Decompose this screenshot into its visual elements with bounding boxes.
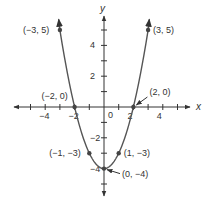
point-label: (1, −3) — [124, 148, 150, 158]
y-tick-label: −4 — [90, 164, 100, 174]
point-label: (−1, −3) — [49, 148, 81, 158]
point-label: (3, 5) — [153, 25, 174, 35]
point-label: (2, 0) — [149, 87, 170, 97]
data-point — [117, 151, 121, 155]
y-tick-label: 4 — [90, 40, 95, 50]
point-label: (−3, 5) — [23, 25, 49, 35]
data-point — [131, 105, 135, 109]
x-tick-label: −4 — [39, 111, 49, 121]
data-point — [87, 151, 91, 155]
data-point — [102, 166, 106, 170]
y-axis-label: y — [99, 3, 106, 14]
parabola-chart: −4−22442−2−4 (−3, 5)(3, 5)(−2, 0)(2, 0)(… — [0, 0, 210, 208]
labeled-points: (−3, 5)(3, 5)(−2, 0)(2, 0)(−1, −3)(1, −3… — [23, 25, 174, 179]
data-point — [146, 28, 150, 32]
pointer-arrow — [107, 170, 120, 174]
y-tick-label: 2 — [90, 71, 95, 81]
data-point — [58, 28, 62, 32]
point-label: (0, −4) — [122, 169, 148, 179]
x-axis-label: x — [195, 101, 202, 112]
y-tick-label: −2 — [90, 133, 100, 143]
pointer-arrow — [136, 97, 147, 105]
origin-label: 0 — [108, 110, 113, 120]
point-label: (−2, 0) — [42, 91, 68, 101]
x-tick-label: 4 — [157, 111, 162, 121]
data-point — [72, 105, 76, 109]
